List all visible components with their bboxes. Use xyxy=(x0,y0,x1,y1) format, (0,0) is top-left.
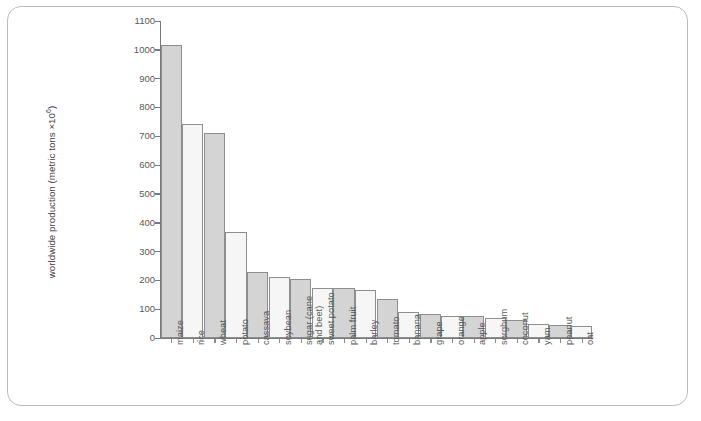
x-label-wheat: wheat xyxy=(218,320,228,345)
y-tick-label-wrap: 0 xyxy=(110,333,155,343)
y-tick-mark xyxy=(155,280,160,281)
x-tick-mark xyxy=(236,339,237,343)
x-tick-mark xyxy=(344,339,345,343)
x-tick-mark xyxy=(495,339,496,343)
x-tick-mark xyxy=(538,339,539,343)
x-label-banana: banana xyxy=(412,314,422,345)
y-tick-label: 600 xyxy=(123,160,155,170)
x-tick-mark xyxy=(171,339,172,343)
y-tick-mark xyxy=(155,251,160,252)
y-tick-label: 200 xyxy=(123,275,155,285)
x-tick-mark xyxy=(582,339,583,343)
x-tick-mark xyxy=(387,339,388,343)
y-tick-label-wrap: 1100 xyxy=(110,16,155,26)
y-tick-mark xyxy=(155,193,160,194)
x-label-cassava: cassava xyxy=(261,311,271,345)
y-tick-mark xyxy=(155,338,160,339)
y-axis-title-exponent: 6 xyxy=(45,109,52,113)
x-tick-mark xyxy=(474,339,475,343)
x-label-apple: apple xyxy=(477,322,487,345)
x-label-potato: potato xyxy=(240,319,250,345)
y-tick-label: 300 xyxy=(123,247,155,257)
y-tick-label-wrap: 600 xyxy=(110,160,155,170)
x-label-barley: barley xyxy=(369,320,379,345)
x-tick-mark xyxy=(279,339,280,343)
y-tick-mark xyxy=(155,78,160,79)
bar-maize[interactable] xyxy=(161,45,182,338)
x-tick-mark xyxy=(193,339,194,343)
y-tick-mark xyxy=(155,21,160,22)
y-axis-title: worldwide production (metric tons ×106) xyxy=(45,82,57,302)
bar-chart: worldwide production (metric tons ×106) … xyxy=(0,0,701,421)
x-label-soybean: soybean xyxy=(283,310,293,345)
x-tick-mark xyxy=(258,339,259,343)
y-tick-label-wrap: 800 xyxy=(110,102,155,112)
y-tick-label-wrap: 400 xyxy=(110,218,155,228)
x-tick-mark xyxy=(560,339,561,343)
x-label-tomato: tomato xyxy=(391,317,401,345)
bar-wheat[interactable] xyxy=(204,133,225,338)
y-tick-label-wrap: 100 xyxy=(110,304,155,314)
x-label-sorghum: sorghum xyxy=(499,309,509,345)
x-label-palm-fruit: palm fruit xyxy=(348,307,358,345)
y-tick-label: 800 xyxy=(123,102,155,112)
y-tick-mark xyxy=(155,49,160,50)
x-label-maize: maize xyxy=(175,320,185,345)
x-tick-mark xyxy=(409,339,410,343)
x-tick-mark xyxy=(517,339,518,343)
y-tick-mark xyxy=(155,222,160,223)
y-tick-label-wrap: 500 xyxy=(110,189,155,199)
x-tick-mark xyxy=(214,339,215,343)
y-tick-label-wrap: 300 xyxy=(110,247,155,257)
y-tick-label-wrap: 700 xyxy=(110,131,155,141)
bar-rice[interactable] xyxy=(182,124,203,338)
y-tick-mark xyxy=(155,165,160,166)
y-tick-label: 700 xyxy=(123,131,155,141)
x-label-yam: yam xyxy=(542,327,552,345)
x-tick-mark xyxy=(366,339,367,343)
y-tick-mark xyxy=(155,309,160,310)
y-tick-label: 500 xyxy=(123,189,155,199)
x-label-rice: rice xyxy=(196,330,206,345)
y-tick-label-wrap: 200 xyxy=(110,275,155,285)
x-tick-mark xyxy=(301,339,302,343)
x-label-orange: orange xyxy=(456,316,466,345)
y-axis-title-suffix: ) xyxy=(46,106,57,109)
y-axis-title-prefix: worldwide production (metric tons ×10 xyxy=(46,113,57,278)
y-tick-mark xyxy=(155,107,160,108)
x-label-oat: oat xyxy=(585,332,595,345)
x-tick-mark xyxy=(452,339,453,343)
x-label-coconut: coconut xyxy=(520,312,530,345)
x-label-peanut: peanut xyxy=(564,317,574,345)
x-label-sugar-cane-and-beet-: sugar (caneand beet) xyxy=(304,281,325,345)
x-tick-mark xyxy=(430,339,431,343)
x-tick-mark xyxy=(322,339,323,343)
y-tick-mark xyxy=(155,136,160,137)
x-label-sweet-potato: sweet potato xyxy=(326,292,336,345)
x-label-grape: grape xyxy=(434,321,444,345)
y-tick-label: 0 xyxy=(123,333,155,343)
y-tick-label: 1000 xyxy=(123,45,155,55)
y-tick-label: 1100 xyxy=(123,16,155,26)
y-tick-label: 400 xyxy=(123,218,155,228)
y-tick-label: 900 xyxy=(123,74,155,84)
y-tick-label: 100 xyxy=(123,304,155,314)
y-tick-label-wrap: 1000 xyxy=(110,45,155,55)
y-tick-label-wrap: 900 xyxy=(110,74,155,84)
